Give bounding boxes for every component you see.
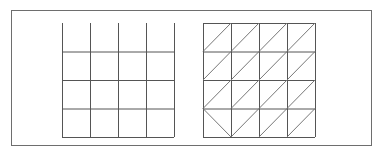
diagonal-line (287, 23, 315, 52)
diagonal-line (231, 80, 259, 109)
diagonal-line (287, 109, 315, 138)
diagonal-line (231, 52, 259, 81)
diagonal-line (203, 109, 231, 138)
diagonal-line (231, 23, 259, 52)
triangulated-grid (203, 23, 316, 138)
diagonal-line (259, 109, 287, 138)
diagonal-line (203, 52, 231, 81)
diagonal-line (259, 23, 287, 52)
diagonal-line (287, 80, 315, 109)
diagonal-line (259, 52, 287, 81)
grid-diagram (0, 0, 385, 155)
square-grid (62, 23, 175, 138)
diagonal-line (203, 80, 231, 109)
diagonal-line (231, 109, 259, 138)
diagonal-line (287, 52, 315, 81)
diagonal-line (259, 80, 287, 109)
diagonal-line (203, 23, 231, 52)
